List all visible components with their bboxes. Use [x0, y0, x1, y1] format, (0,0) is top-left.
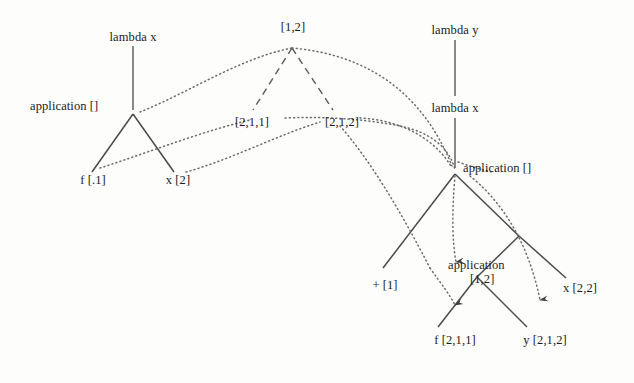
label-f-left: f [.1] — [80, 173, 106, 187]
curve-top-to-right-app — [292, 48, 452, 166]
diagram-graphics — [0, 0, 634, 383]
edge-left-app-to-x — [133, 114, 174, 172]
edge-inner-to-x22 — [519, 236, 566, 278]
label-plus-one: + [1] — [372, 278, 397, 292]
edge-dashed-top-to-212 — [292, 48, 333, 110]
label-application-right: application [] — [463, 161, 531, 175]
label-application-left: application [] — [30, 99, 98, 113]
curve-left-app-to-top — [140, 48, 292, 112]
label-path-212: [2,1,2] — [325, 115, 359, 129]
label-x-22: x [2,2] — [563, 281, 597, 295]
curve-f-to-211 — [100, 120, 250, 168]
edge-right-app-to-inner — [455, 174, 519, 236]
label-application-inner-line1: application — [448, 258, 505, 272]
label-lambda-x-left: lambda x — [110, 30, 157, 44]
label-y-212: y [2,1,2] — [523, 333, 567, 347]
label-f-211: f [2,1,1] — [434, 333, 476, 347]
label-x-left: x [2] — [166, 173, 190, 187]
label-lambda-y-right: lambda y — [432, 23, 479, 37]
label-application-inner-line2: [1,2] — [448, 272, 505, 286]
curve-212-long-down — [340, 126, 430, 268]
diagram-canvas: lambda x application [] f [.1] x [2] [1,… — [0, 0, 634, 383]
curve-x-to-212 — [186, 122, 320, 172]
curve-right-to-app-right — [400, 126, 455, 170]
label-lambda-x-right: lambda x — [432, 101, 479, 115]
curve-app-right-to-app12 — [453, 176, 456, 262]
edge-right-app-to-plus — [383, 174, 455, 268]
label-top-path: [1,2] — [281, 20, 305, 34]
label-path-211: [2,1,1] — [235, 115, 269, 129]
label-application-inner: application [1,2] — [448, 258, 505, 287]
